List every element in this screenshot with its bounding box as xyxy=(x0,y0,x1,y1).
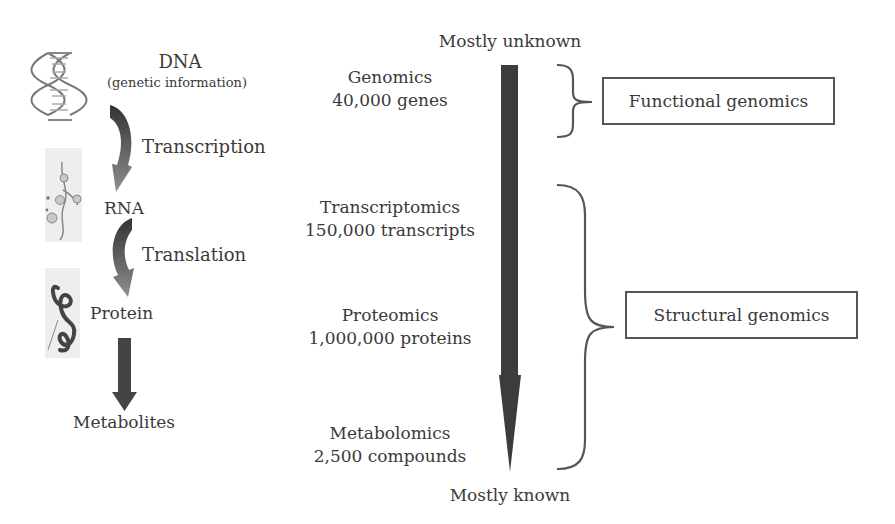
level-name: Proteomics xyxy=(290,305,490,325)
rna-title: RNA xyxy=(104,198,144,218)
transcription-arrow-icon xyxy=(110,105,132,192)
metabolites-arrow-icon xyxy=(112,338,137,411)
functional-genomics-label: Functional genomics xyxy=(629,91,809,111)
level-name: Transcriptomics xyxy=(290,197,490,217)
dna-subtitle: (genetic information) xyxy=(82,73,272,93)
translation-label: Translation xyxy=(142,245,246,265)
level-name: Metabolomics xyxy=(290,423,490,443)
level-count: 2,500 compounds xyxy=(290,446,490,466)
mostly-known-label: Mostly known xyxy=(420,485,600,505)
translation-arrow-icon xyxy=(113,218,134,297)
level-name: Genomics xyxy=(300,67,480,87)
dna-title: DNA xyxy=(125,52,235,72)
mostly-unknown-label: Mostly unknown xyxy=(420,31,600,51)
transcription-label: Transcription xyxy=(142,137,266,157)
functional-brace xyxy=(557,65,592,137)
level-count: 1,000,000 proteins xyxy=(290,328,490,348)
level-count: 150,000 transcripts xyxy=(290,220,490,240)
level-count: 40,000 genes xyxy=(300,90,480,110)
protein-fold-icon xyxy=(45,268,80,358)
structural-brace xyxy=(557,185,614,469)
protein-title: Protein xyxy=(90,303,153,323)
functional-genomics-box: Functional genomics xyxy=(602,77,835,125)
dna-helix-icon xyxy=(32,53,87,120)
structural-genomics-box: Structural genomics xyxy=(625,291,858,339)
structural-genomics-label: Structural genomics xyxy=(654,305,830,325)
rna-strand-icon xyxy=(45,148,82,242)
unknown-to-known-arrow xyxy=(499,65,521,472)
metabolites-title: Metabolites xyxy=(73,412,175,432)
